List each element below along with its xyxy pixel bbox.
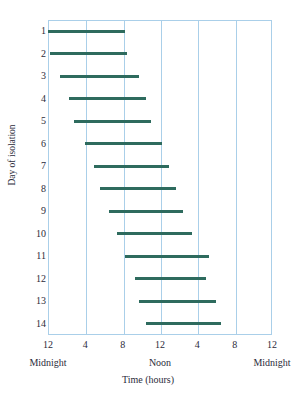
chart-root: 1234567891011121314 Day of isolation 124… bbox=[0, 0, 296, 396]
x-axis-tick-label: 12 bbox=[145, 339, 175, 350]
y-axis-tick-label: 8 bbox=[20, 184, 46, 194]
gridline-x bbox=[124, 21, 125, 334]
y-axis-tick-label: 14 bbox=[20, 319, 46, 329]
x-axis-tick-label: 12 bbox=[257, 339, 287, 350]
gridline-x bbox=[198, 21, 199, 334]
x-axis-tick-label: 8 bbox=[220, 339, 250, 350]
x-axis-tick-label: 4 bbox=[70, 339, 100, 350]
y-axis-tick-label: 2 bbox=[20, 49, 46, 59]
gridline-x bbox=[236, 21, 237, 334]
y-axis-tick-label: 13 bbox=[20, 296, 46, 306]
y-axis-tick-labels: 1234567891011121314 bbox=[20, 20, 46, 335]
x-axis-tick-label: 12 bbox=[33, 339, 63, 350]
y-axis-tick-label: 12 bbox=[20, 274, 46, 284]
gridline-x bbox=[86, 21, 87, 334]
y-axis-tick-label: 11 bbox=[20, 251, 46, 261]
y-axis-tick-label: 9 bbox=[20, 206, 46, 216]
x-axis-title: Time (hours) bbox=[0, 374, 296, 385]
x-axis-band-label: Noon bbox=[122, 357, 198, 368]
y-axis-tick-label: 10 bbox=[20, 229, 46, 239]
x-axis-tick-label: 8 bbox=[108, 339, 138, 350]
x-axis-band-label: Midnight bbox=[10, 357, 86, 368]
y-axis-tick-label: 3 bbox=[20, 71, 46, 81]
plot-area bbox=[48, 20, 272, 335]
y-axis-title: Day of isolation bbox=[7, 105, 17, 205]
y-axis-tick-label: 4 bbox=[20, 94, 46, 104]
gridline-x bbox=[161, 21, 162, 334]
x-axis-band-label: Midnight bbox=[234, 357, 296, 368]
y-axis-tick-label: 1 bbox=[20, 26, 46, 36]
y-axis-tick-label: 5 bbox=[20, 116, 46, 126]
y-axis-tick-label: 7 bbox=[20, 161, 46, 171]
x-axis-tick-label: 4 bbox=[182, 339, 212, 350]
y-axis-tick-label: 6 bbox=[20, 139, 46, 149]
